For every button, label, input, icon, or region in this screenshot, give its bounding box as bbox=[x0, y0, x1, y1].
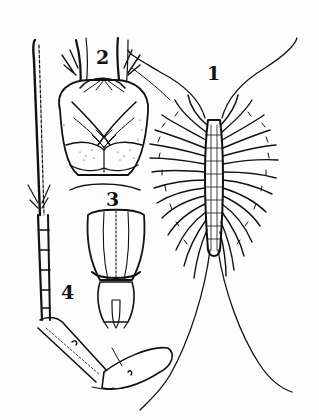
figure-label-1: 1 bbox=[207, 64, 220, 83]
segment-figure bbox=[88, 210, 145, 328]
head-figure bbox=[59, 38, 170, 190]
figure-label-4: 4 bbox=[61, 283, 74, 302]
illustration-drawing bbox=[0, 0, 319, 420]
figure-label-3: 3 bbox=[106, 190, 119, 209]
illustration-canvas: 1 2 3 4 bbox=[0, 0, 319, 420]
figure-label-2: 2 bbox=[96, 48, 109, 67]
